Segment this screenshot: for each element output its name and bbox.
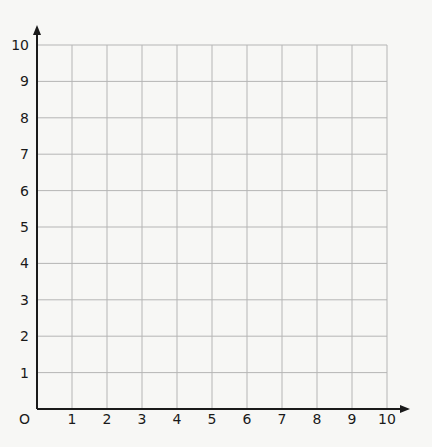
x-tick-label: 9 xyxy=(348,411,357,427)
tick-labels: 1234567891012345678910O xyxy=(11,37,396,427)
y-axis-arrow-icon xyxy=(33,25,41,35)
origin-label: O xyxy=(19,411,30,427)
x-tick-label: 7 xyxy=(278,411,287,427)
x-tick-label: 5 xyxy=(208,411,217,427)
y-tick-label: 6 xyxy=(20,183,29,199)
coordinate-grid: 1234567891012345678910O xyxy=(0,0,432,447)
x-tick-label: 3 xyxy=(138,411,147,427)
y-tick-label: 3 xyxy=(20,292,29,308)
y-tick-label: 10 xyxy=(11,37,29,53)
y-tick-label: 9 xyxy=(20,73,29,89)
x-tick-label: 8 xyxy=(313,411,322,427)
x-tick-label: 1 xyxy=(68,411,77,427)
y-tick-label: 2 xyxy=(20,328,29,344)
y-tick-label: 5 xyxy=(20,219,29,235)
y-tick-label: 8 xyxy=(20,110,29,126)
grid-lines xyxy=(37,45,387,409)
x-tick-label: 6 xyxy=(243,411,252,427)
x-axis-arrow-icon xyxy=(400,405,410,413)
y-tick-label: 7 xyxy=(20,146,29,162)
x-tick-label: 4 xyxy=(173,411,182,427)
axes xyxy=(33,25,410,413)
y-tick-label: 1 xyxy=(20,365,29,381)
x-tick-label: 2 xyxy=(103,411,112,427)
x-tick-label: 10 xyxy=(378,411,396,427)
y-tick-label: 4 xyxy=(20,255,29,271)
